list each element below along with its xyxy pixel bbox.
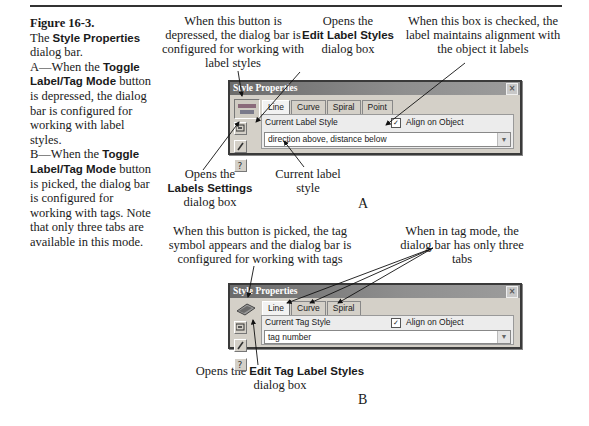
tab-spiral[interactable]: Spiral (327, 100, 361, 114)
panel-letter-a: A (358, 196, 368, 212)
tab-spiral[interactable]: Spiral (327, 301, 361, 315)
callout-align-checkbox: When this box is checked, the label main… (404, 14, 562, 56)
figure-number: Figure 16-3. (30, 16, 158, 31)
chevron-down-icon[interactable]: ▼ (497, 133, 510, 146)
pencil-icon (236, 142, 245, 151)
tab-pane: Current Label Style ✓ Align on Object di… (261, 114, 514, 149)
edit-label-styles-button[interactable] (234, 140, 247, 153)
chevron-down-icon[interactable]: ▼ (497, 331, 510, 343)
svg-text:?: ? (238, 161, 243, 170)
callout-edit-label-styles: Opens the Edit Label Styles dialog box (298, 14, 398, 56)
dialog-title: Style Properties (233, 83, 297, 93)
top-rule (30, 5, 562, 7)
dialog-titlebar[interactable]: Style Properties × (230, 82, 520, 95)
svg-text:?: ? (238, 360, 243, 369)
help-icon: ? (236, 360, 245, 369)
tab-curve[interactable]: Curve (291, 100, 326, 114)
labels-settings-button[interactable] (234, 321, 247, 334)
callout-current-style: Current label style (273, 167, 343, 195)
current-tag-style-dropdown[interactable]: tag number ▼ (264, 330, 511, 344)
tab-strip: Line Curve Spiral Point (262, 100, 394, 115)
tab-strip: Line Curve Spiral (262, 301, 362, 316)
style-properties-dialog-a: Style Properties × ? (228, 80, 522, 155)
tab-line[interactable]: Line (262, 301, 290, 316)
settings-icon (236, 323, 245, 332)
toggle-label-tag-mode-button[interactable] (234, 99, 260, 119)
align-on-object-checkbox[interactable]: ✓ (391, 318, 401, 328)
tab-line[interactable]: Line (262, 100, 290, 115)
labels-settings-button[interactable] (234, 122, 247, 135)
align-on-object-checkbox[interactable]: ✓ (391, 118, 401, 128)
dropdown-value: tag number (268, 332, 311, 342)
dialog-title: Style Properties (233, 286, 297, 296)
toggle-label-tag-mode-button[interactable] (234, 300, 258, 318)
figure-caption: Figure 16-3. The Style Properties dialog… (30, 16, 158, 250)
label-mode-icon (237, 102, 257, 116)
help-button[interactable]: ? (234, 159, 247, 172)
current-tag-style-label: Current Tag Style (265, 317, 331, 327)
tab-curve[interactable]: Curve (291, 301, 326, 315)
close-button[interactable]: × (506, 83, 518, 95)
current-label-style-dropdown[interactable]: direction above, distance below ▼ (264, 132, 511, 147)
callout-tag-picked: When this button is picked, the tag symb… (160, 224, 360, 266)
settings-icon (236, 124, 245, 133)
align-on-object-label: Align on Object (406, 115, 464, 130)
align-on-object-label: Align on Object (406, 316, 464, 329)
dialog-titlebar[interactable]: Style Properties × (230, 285, 520, 298)
tag-icon (235, 301, 257, 317)
tab-point[interactable]: Point (362, 100, 393, 114)
callout-edit-tag-label-styles: Opens the Edit Tag Label Styles dialog b… (185, 364, 375, 392)
tab-pane: Current Tag Style ✓ Align on Object tag … (261, 315, 514, 345)
style-properties-dialog-b: Style Properties × ? (228, 283, 522, 349)
callout-tag-mode-tabs: When in tag mode, the dialog bar has onl… (398, 224, 526, 266)
help-icon: ? (236, 161, 245, 170)
edit-tag-label-styles-button[interactable] (234, 339, 247, 352)
panel-letter-b: B (358, 392, 367, 408)
dropdown-value: direction above, distance below (268, 134, 387, 144)
pencil-icon (236, 341, 245, 350)
current-label-style-label: Current Label Style (265, 117, 338, 127)
close-button[interactable]: × (506, 286, 518, 298)
callout-depressed: When this button is depressed, the dialo… (158, 14, 308, 70)
help-button[interactable]: ? (234, 358, 247, 371)
